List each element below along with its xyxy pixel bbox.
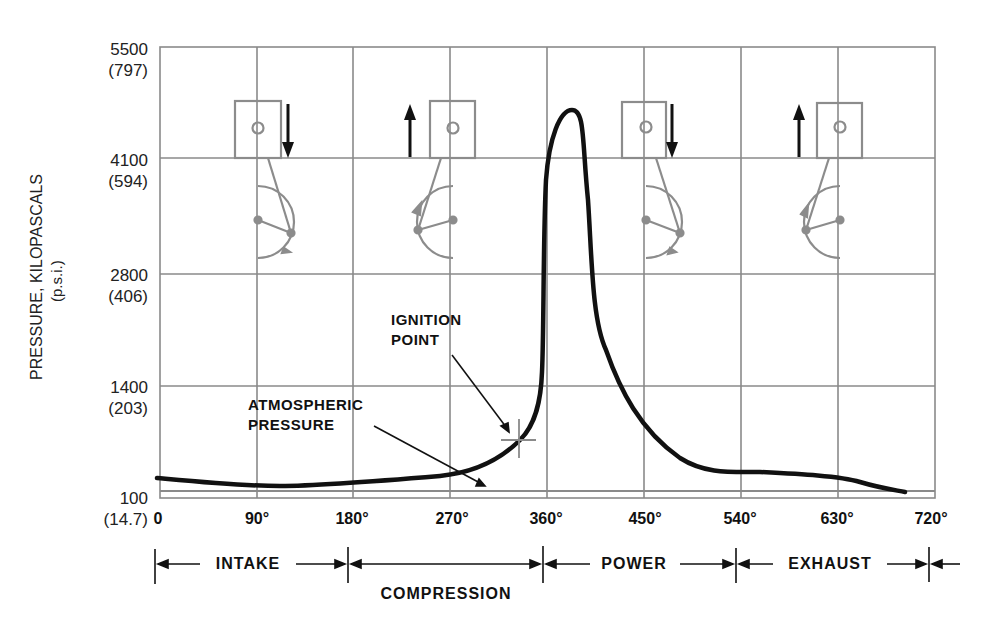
- annotation-pointers: [374, 355, 509, 486]
- stroke-arrows: [282, 104, 805, 158]
- y-tick-4100: 4100 (594): [58, 150, 148, 192]
- y-tick-100: 100 (14.7): [58, 488, 148, 530]
- y-tick-5500: 5500 (797): [58, 39, 148, 81]
- x-tick-720: 720°: [914, 510, 947, 528]
- piston-diagram-intake: [235, 101, 295, 258]
- y-tick-kpa: 2800: [58, 265, 148, 286]
- piston-diagram-compression: [413, 101, 475, 258]
- x-tick-450: 450°: [628, 510, 661, 528]
- y-tick-kpa: 1400: [58, 377, 148, 398]
- y-tick-psi: (14.7): [58, 509, 148, 530]
- phase-compression-label: COMPRESSION: [376, 585, 515, 603]
- piston-diagram-exhaust: [801, 103, 862, 258]
- x-tick-540: 540°: [723, 510, 756, 528]
- phase-exhaust-label: EXHAUST: [784, 555, 875, 573]
- y-axis-label-text: PRESSURE, KILOPASCALS: [28, 174, 45, 380]
- ignition-label-line1: IGNITION: [391, 310, 462, 330]
- x-tick-270: 270°: [435, 510, 468, 528]
- phase-power-label: POWER: [597, 555, 670, 573]
- ignition-label-line2: POINT: [391, 330, 462, 350]
- x-tick-630: 630°: [820, 510, 853, 528]
- y-tick-psi: (797): [58, 60, 148, 81]
- atmospheric-label-line1: ATMOSPHERIC: [248, 395, 363, 415]
- phase-intake-label: INTAKE: [212, 555, 284, 573]
- x-tick-360: 360°: [529, 510, 562, 528]
- x-tick-0: 0: [154, 510, 163, 528]
- y-tick-2800: 2800 (406): [58, 265, 148, 307]
- pressure-chart: [0, 0, 982, 635]
- y-tick-psi: (594): [58, 171, 148, 192]
- ignition-point-label: IGNITION POINT: [391, 310, 462, 350]
- y-tick-psi: (203): [58, 398, 148, 419]
- x-tick-90: 90°: [245, 510, 269, 528]
- y-axis-label: PRESSURE, KILOPASCALS: [28, 174, 46, 380]
- x-tick-180: 180°: [335, 510, 368, 528]
- y-tick-1400: 1400 (203): [58, 377, 148, 419]
- y-tick-kpa: 100: [58, 488, 148, 509]
- atmospheric-pressure-label: ATMOSPHERIC PRESSURE: [248, 395, 363, 435]
- y-tick-psi: (406): [58, 286, 148, 307]
- atmospheric-label-line2: PRESSURE: [248, 415, 363, 435]
- piston-diagram-power: [622, 102, 684, 258]
- y-tick-kpa: 4100: [58, 150, 148, 171]
- y-tick-kpa: 5500: [58, 39, 148, 60]
